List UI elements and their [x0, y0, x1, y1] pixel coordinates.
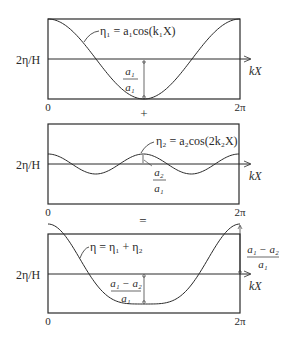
panel-3-x-end-label: 2π [234, 315, 246, 327]
panel-2-amplitude-leader [144, 160, 152, 166]
panel-1-curve-label: η₁ = a₁cos(k₁X) [100, 24, 176, 38]
wave-superposition-diagram: η₁ = a₁cos(k₁X) a₁ a₁ 2η/H kX 0 2π + η₂ … [0, 0, 285, 343]
panel-3: η = η₁ + η₂ a₁ − a₂ a₁ a₁ − a₂ a₁ 2η/H k… [16, 224, 279, 327]
panel-3-amplitude-numerator: a₁ − a₂ [110, 277, 142, 289]
panel-1-amplitude-numerator: a₁ [125, 65, 135, 77]
panel-1-x-end-label: 2π [234, 101, 246, 113]
panel-2-x-axis-label: kX [249, 169, 262, 183]
panel-2-label-leader [141, 142, 154, 153]
panel-3-x-axis-label: kX [249, 279, 262, 293]
panel-1-y-axis-label: 2η/H [16, 53, 41, 67]
panel-3-y-axis-label: 2η/H [16, 268, 41, 282]
panel-3-amplitude-denominator: a₁ [121, 292, 131, 304]
panel-1-amplitude-denominator: a₁ [125, 81, 135, 93]
panel-2-x-start-label: 0 [45, 206, 51, 218]
panel-3-label-leader [80, 247, 89, 258]
panel-1-x-start-label: 0 [45, 101, 51, 113]
panel-2-x-end-label: 2π [234, 206, 246, 218]
plus-operator: + [140, 106, 147, 121]
panel-3-x-start-label: 0 [45, 315, 51, 327]
panel-2-amplitude-numerator: a₂ [154, 166, 164, 178]
panel-3-crest-denominator: a₁ [258, 258, 268, 270]
equals-operator: = [139, 213, 146, 228]
panel-2-amplitude-denominator: a₁ [154, 182, 164, 194]
panel-3-curve-label: η = η₁ + η₂ [90, 240, 143, 254]
panel-2-curve-label: η₂ = a₂cos(2k₂X) [156, 134, 238, 148]
panel-1-label-leader [84, 31, 99, 42]
panel-2: η₂ = a₂cos(2k₂X) a₂ a₁ 2η/H kX 0 2π [16, 124, 262, 218]
panel-1-x-axis-label: kX [249, 64, 262, 78]
panel-2-y-axis-label: 2η/H [16, 158, 41, 172]
panel-3-crest-numerator: a₁ − a₂ [247, 243, 279, 255]
panel-1: η₁ = a₁cos(k₁X) a₁ a₁ 2η/H kX 0 2π [16, 19, 262, 113]
